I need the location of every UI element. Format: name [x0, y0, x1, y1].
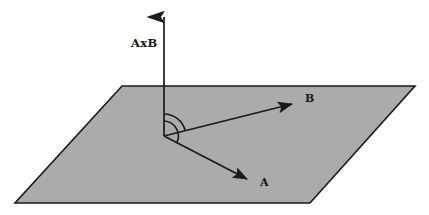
vector-b-label: B [305, 92, 315, 105]
cross-product-label: AxB [130, 36, 157, 50]
shaded-plane [15, 86, 415, 203]
vector-a-label: A [259, 176, 269, 189]
figure-canvas: AxB B A [0, 0, 429, 215]
cross-product-figure: AxB B A [0, 0, 429, 215]
